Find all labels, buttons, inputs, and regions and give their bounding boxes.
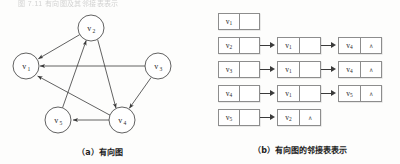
adjacency-head-cell[interactable]: v4	[218, 85, 260, 102]
directed-graph-svg: v 1 v 2 v 3 v 4	[0, 8, 200, 143]
adjacency-node-pointer	[299, 62, 320, 77]
adjacency-node-vertex: v5	[339, 86, 360, 101]
edge-v4-v1	[38, 76, 110, 115]
adjacency-head-vertex: v3	[219, 62, 239, 77]
link-arrow-icon	[260, 61, 277, 78]
adjacency-head-cell[interactable]: v5	[218, 109, 260, 126]
link-arrow-icon	[321, 61, 338, 78]
graph-node-v2-subscript: 2	[93, 28, 96, 34]
link-arrow-icon	[321, 85, 338, 102]
adjacency-list-figure: v1 v2 v1 v4	[206, 8, 400, 143]
graph-node-v4-label: v	[118, 116, 122, 125]
adjacency-head-vertex: v5	[219, 110, 239, 125]
edge-v5-v2	[63, 41, 87, 108]
graph-node-v2[interactable]: v 2	[78, 15, 104, 41]
figure-caption-b: （b）有向图的邻接表表示	[200, 144, 400, 155]
link-arrow-icon	[321, 37, 338, 54]
null-pointer-icon: ∧	[360, 38, 381, 53]
link-arrow-icon	[260, 85, 277, 102]
adjacency-node-vertex: v1	[278, 86, 299, 101]
adjacency-head-pointer	[239, 14, 259, 29]
directed-graph-figure: v 1 v 2 v 3 v 4	[0, 8, 200, 143]
graph-node-v5-subscript: 5	[60, 120, 63, 126]
adjacency-head-cell[interactable]: v1	[218, 13, 260, 30]
graph-node-v4-subscript: 4	[124, 120, 127, 126]
adjacency-list-row: v4 v1 v5 ∧	[218, 84, 382, 102]
graph-node-v1[interactable]: v 1	[13, 53, 39, 79]
adjacency-head-cell[interactable]: v2	[218, 37, 260, 54]
null-pointer-icon: ∧	[360, 62, 381, 77]
graph-node-v3-label: v	[154, 62, 158, 71]
adjacency-node-cell[interactable]: v4 ∧	[338, 37, 382, 54]
adjacency-node-cell[interactable]: v5 ∧	[338, 85, 382, 102]
graph-node-v5[interactable]: v 5	[45, 107, 71, 133]
adjacency-head-pointer	[239, 38, 259, 53]
adjacency-list-row: v2 v1 v4 ∧	[218, 36, 382, 54]
adjacency-node-vertex: v1	[278, 38, 299, 53]
adjacency-node-pointer	[299, 86, 320, 101]
adjacency-list-row: v5 v2 ∧	[218, 108, 321, 126]
adjacency-node-vertex: v1	[278, 62, 299, 77]
adjacency-node-cell[interactable]: v4 ∧	[338, 61, 382, 78]
adjacency-node-cell[interactable]: v1	[277, 85, 321, 102]
adjacency-head-pointer	[239, 110, 259, 125]
adjacency-list-row: v3 v1 v4 ∧	[218, 60, 382, 78]
edge-v3-v4	[129, 77, 151, 108]
adjacency-node-vertex: v4	[339, 62, 360, 77]
adjacency-head-vertex: v1	[219, 14, 239, 29]
link-arrow-icon	[260, 109, 277, 126]
graph-node-v1-label: v	[22, 62, 26, 71]
graph-node-v4[interactable]: v 4	[109, 107, 135, 133]
adjacency-node-pointer	[299, 38, 320, 53]
adjacency-node-vertex: v2	[278, 110, 299, 125]
adjacency-node-vertex: v4	[339, 38, 360, 53]
adjacency-node-cell[interactable]: v2 ∧	[277, 109, 321, 126]
graph-node-group: v 1 v 2 v 3 v 4	[13, 15, 171, 133]
graph-node-v3[interactable]: v 3	[145, 53, 171, 79]
adjacency-head-pointer	[239, 86, 259, 101]
null-pointer-icon: ∧	[360, 86, 381, 101]
adjacency-head-cell[interactable]: v3	[218, 61, 260, 78]
figure-page: 图 7.11 有向图及其邻接表表示	[0, 0, 400, 164]
edge-v2-v1	[38, 35, 80, 59]
figure-caption-a: （a）有向图	[0, 146, 200, 157]
null-pointer-icon: ∧	[299, 110, 320, 125]
adjacency-node-cell[interactable]: v1	[277, 37, 321, 54]
adjacency-list-row: v1	[218, 12, 260, 30]
adjacency-head-vertex: v2	[219, 38, 239, 53]
graph-node-v5-label: v	[54, 116, 58, 125]
graph-node-v3-subscript: 3	[160, 66, 163, 72]
edge-v2-v4	[98, 39, 116, 108]
graph-node-v1-subscript: 1	[28, 66, 31, 72]
adjacency-node-cell[interactable]: v1	[277, 61, 321, 78]
adjacency-head-pointer	[239, 62, 259, 77]
link-arrow-icon	[260, 37, 277, 54]
graph-node-v2-label: v	[87, 24, 91, 33]
adjacency-head-vertex: v4	[219, 86, 239, 101]
scan-artifact-top-text: 图 7.11 有向图及其邻接表表示	[18, 0, 384, 7]
